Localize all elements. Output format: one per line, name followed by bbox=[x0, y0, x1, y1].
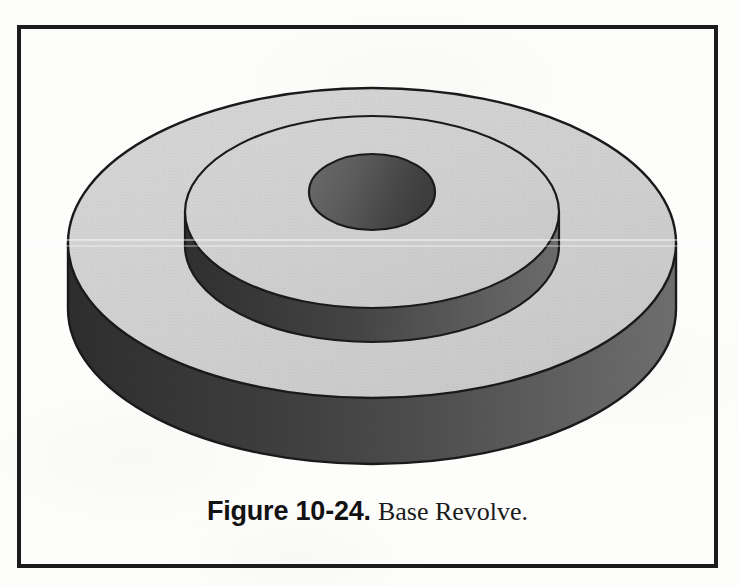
figure-border bbox=[17, 25, 718, 568]
figure-page: Figure 10-24.Base Revolve. bbox=[0, 0, 738, 586]
figure-caption: Figure 10-24.Base Revolve. bbox=[17, 498, 718, 525]
figure-title-text: Base Revolve. bbox=[378, 497, 528, 526]
figure-number-label: Figure 10-24. bbox=[207, 496, 371, 526]
